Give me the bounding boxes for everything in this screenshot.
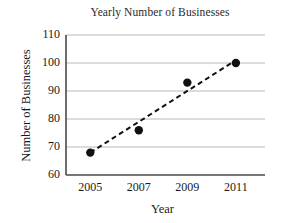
data-point [232,59,240,67]
y-tick-label: 70 [28,139,60,154]
data-point [86,148,94,156]
y-tick-label: 100 [28,55,60,70]
data-point [135,126,143,134]
trend-line [90,60,236,152]
y-tick-label: 60 [28,167,60,182]
x-tick-label: 2007 [118,180,160,195]
x-tick-label: 2005 [69,180,111,195]
gridlines [66,35,265,147]
trend-line-segment [90,60,236,152]
data-point [183,78,191,86]
y-tick-label: 110 [28,27,60,42]
x-tick-label: 2011 [215,180,257,195]
data-points [86,59,240,157]
y-tick-label: 80 [28,111,60,126]
x-tick-label: 2009 [166,180,208,195]
chart-figure: Yearly Number of Businesses Number of Bu… [0,0,281,223]
y-tick-label: 90 [28,83,60,98]
